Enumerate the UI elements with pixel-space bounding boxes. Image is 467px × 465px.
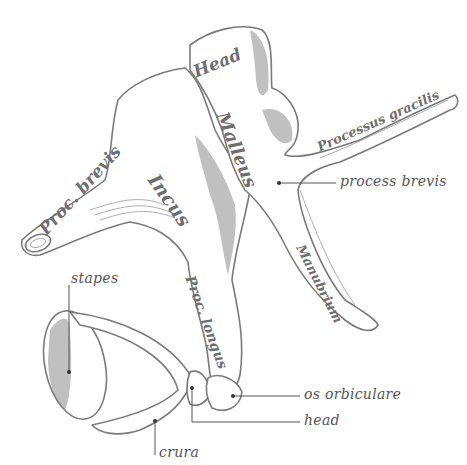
callout-crura: crura xyxy=(159,444,199,460)
callout-head: head xyxy=(304,412,340,428)
callout-os-orbiculare: os orbiculare xyxy=(304,386,401,402)
callout-stapes: stapes xyxy=(71,270,118,286)
callout-process-brevis: process brevis xyxy=(340,173,447,189)
